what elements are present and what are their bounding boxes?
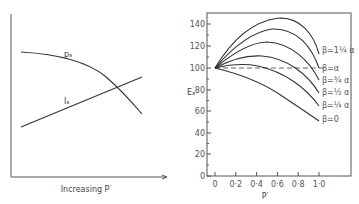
svg-text:0·6: 0·6 bbox=[271, 180, 284, 189]
svg-text:0: 0 bbox=[212, 180, 217, 189]
svg-text:60: 60 bbox=[195, 107, 205, 116]
svg-text:40: 40 bbox=[195, 129, 205, 138]
legend-beta-0-25a: β=¼ α bbox=[322, 101, 349, 110]
figure: pₐ Iₐ Increasing P′ 0 20 40 bbox=[0, 0, 359, 204]
curves bbox=[215, 18, 319, 121]
y-tick-labels: 0 20 40 60 80 100 120 140 bbox=[190, 20, 205, 181]
y-axis-label: Eₐ bbox=[187, 88, 195, 97]
svg-text:100: 100 bbox=[190, 64, 205, 73]
pa-curve bbox=[21, 52, 142, 114]
svg-text:20: 20 bbox=[195, 150, 205, 159]
ia-line bbox=[21, 77, 142, 127]
x-ticks bbox=[215, 172, 319, 176]
curve-beta-0-25a bbox=[215, 65, 319, 106]
left-x-label: Increasing P′ bbox=[61, 185, 112, 194]
pa-label: pₐ bbox=[64, 50, 72, 59]
svg-text:80: 80 bbox=[195, 86, 205, 95]
left-chart: pₐ Iₐ Increasing P′ bbox=[11, 14, 167, 194]
svg-text:0·8: 0·8 bbox=[292, 180, 305, 189]
right-chart: 0 20 40 60 80 100 120 140 Eₐ 0 0·2 0·4 0… bbox=[187, 13, 354, 201]
legend-beta-a: β=α bbox=[322, 64, 339, 73]
svg-text:140: 140 bbox=[190, 20, 205, 29]
x-tick-labels: 0 0·2 0·4 0·6 0·8 1·0 bbox=[212, 180, 325, 189]
x-axis-label: P′ bbox=[262, 192, 269, 201]
y-ticks bbox=[207, 24, 211, 176]
svg-text:0: 0 bbox=[200, 172, 205, 181]
svg-text:0·2: 0·2 bbox=[229, 180, 242, 189]
svg-text:1·0: 1·0 bbox=[313, 180, 326, 189]
curve-beta-0 bbox=[215, 68, 319, 121]
legend-beta-0: β=0 bbox=[322, 115, 339, 124]
legend-beta-1-25a: β=1¼ α bbox=[322, 46, 354, 55]
curve-beta-a bbox=[215, 29, 319, 68]
legend: β=1¼ α β=α β=¾ α β=½ α β=¼ α β=0 bbox=[322, 46, 354, 124]
svg-text:120: 120 bbox=[190, 42, 205, 51]
legend-beta-0-5a: β=½ α bbox=[322, 88, 349, 97]
ia-label: Iₐ bbox=[64, 97, 70, 106]
svg-text:0·4: 0·4 bbox=[250, 180, 263, 189]
legend-beta-0-75a: β=¾ α bbox=[322, 76, 349, 85]
